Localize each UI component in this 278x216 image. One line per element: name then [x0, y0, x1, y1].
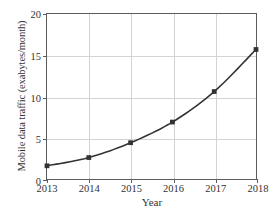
plot-area: 05101520 201320142015201620172018 — [46, 13, 257, 180]
x-tick-label: 2014 — [79, 183, 100, 195]
data-point-marker — [86, 155, 91, 160]
x-tick-label: 2013 — [37, 183, 58, 195]
series-line — [47, 49, 256, 165]
y-axis-title: Mobile data traffic (exabytes/month) — [14, 6, 30, 186]
series-markers — [45, 47, 259, 168]
data-point-marker — [128, 140, 133, 145]
x-tick-label: 2018 — [248, 183, 269, 195]
y-tick-label: 20 — [31, 9, 42, 20]
chart-figure: Mobile data traffic (exabytes/month) 051… — [0, 0, 278, 216]
data-point-marker — [170, 120, 175, 125]
y-tick-label: 5 — [36, 134, 41, 145]
data-series — [47, 14, 256, 179]
y-tick-label: 15 — [31, 50, 42, 61]
x-tick-label: 2017 — [205, 183, 226, 195]
data-point-marker — [254, 47, 259, 52]
data-point-marker — [212, 89, 217, 94]
x-tick-label: 2016 — [163, 183, 184, 195]
x-tick-label: 2015 — [121, 183, 142, 195]
y-tick-label: 10 — [31, 92, 42, 103]
data-point-marker — [45, 163, 50, 168]
x-axis-title: Year — [46, 196, 258, 209]
